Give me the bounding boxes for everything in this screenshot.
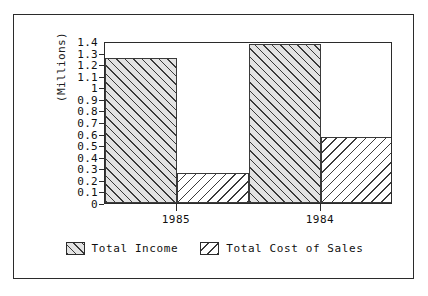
y-axis-tick-label: 0.2 bbox=[77, 176, 98, 187]
legend-entry-total-income: Total Income bbox=[66, 242, 179, 255]
y-axis-tick-label: 0.8 bbox=[77, 106, 98, 117]
y-axis-tick-label: 0 bbox=[91, 199, 98, 210]
y-axis-tick-label: 0.6 bbox=[77, 130, 98, 141]
legend-swatch-icon bbox=[66, 242, 85, 255]
y-axis-tick-mark bbox=[99, 100, 104, 101]
y-axis-tick-mark bbox=[99, 146, 104, 147]
chart-outer-border: (Millions) 1.41.31.21.110.90.80.70.60.50… bbox=[13, 14, 414, 279]
y-axis-tick-mark bbox=[99, 54, 104, 55]
bar bbox=[177, 173, 249, 203]
y-axis-tick-label: 0.3 bbox=[77, 164, 98, 175]
y-axis-tick-mark bbox=[99, 158, 104, 159]
y-axis-tick-label: 1.3 bbox=[77, 49, 98, 60]
y-axis-tick-label: 1 bbox=[91, 83, 98, 94]
plot-frame bbox=[104, 42, 392, 204]
y-axis-tick-mark bbox=[99, 204, 104, 205]
y-axis-tick-label: 1.2 bbox=[77, 60, 98, 71]
y-axis-tick-label: 0.7 bbox=[77, 118, 98, 129]
y-axis-tick-mark bbox=[99, 123, 104, 124]
y-axis-tick-label: 0.1 bbox=[77, 187, 98, 198]
y-axis-tick-labels: 1.41.31.21.110.90.80.70.60.50.40.30.20.1… bbox=[60, 37, 98, 209]
bar bbox=[321, 137, 392, 203]
legend-label: Total Income bbox=[92, 242, 179, 255]
x-axis-category-label: 1985 bbox=[146, 213, 206, 226]
y-axis-tick-label: 1.1 bbox=[77, 72, 98, 83]
legend-swatch-icon bbox=[200, 242, 219, 255]
y-axis-tick-mark bbox=[99, 135, 104, 136]
y-axis-tick-label: 0.9 bbox=[77, 95, 98, 106]
x-axis-tick-mark bbox=[320, 204, 321, 211]
y-axis-tick-mark bbox=[99, 111, 104, 112]
y-axis-tick-label: 1.4 bbox=[77, 37, 98, 48]
legend-label: Total Cost of Sales bbox=[226, 242, 363, 255]
legend-entry-total-cost-of-sales: Total Cost of Sales bbox=[200, 242, 363, 255]
y-axis-tick-mark bbox=[99, 181, 104, 182]
y-axis-tick-mark bbox=[99, 88, 104, 89]
y-axis-tick-label: 0.4 bbox=[77, 153, 98, 164]
x-axis-tick-mark bbox=[176, 204, 177, 211]
bar-chart: (Millions) 1.41.31.21.110.90.80.70.60.50… bbox=[14, 15, 415, 280]
y-axis-tick-mark bbox=[99, 77, 104, 78]
x-axis-category-label: 1984 bbox=[290, 213, 350, 226]
y-axis-tick-mark bbox=[99, 65, 104, 66]
y-axis-tick-label: 0.5 bbox=[77, 141, 98, 152]
y-axis-tick-mark bbox=[99, 169, 104, 170]
y-axis-tick-mark bbox=[99, 192, 104, 193]
chart-legend: Total Income Total Cost of Sales bbox=[14, 242, 415, 255]
bar bbox=[105, 58, 177, 203]
bar bbox=[249, 44, 321, 203]
bars-layer bbox=[105, 43, 391, 203]
